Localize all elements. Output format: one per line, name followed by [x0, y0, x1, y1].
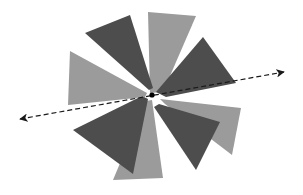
figure-canvas [0, 0, 303, 195]
pinwheel-diagram-svg [0, 0, 303, 195]
center-point-dot [149, 92, 154, 97]
